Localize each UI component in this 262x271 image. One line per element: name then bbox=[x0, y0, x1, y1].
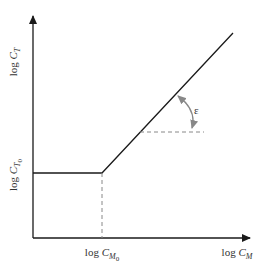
y-tick-label: log CT0 bbox=[7, 158, 24, 191]
svg-text:log CT0: log CT0 bbox=[7, 158, 24, 191]
angle-label: ε bbox=[194, 104, 199, 116]
x-tick-label: log CM0 bbox=[85, 246, 120, 263]
angle-arc bbox=[185, 102, 193, 128]
angle-arc-start bbox=[178, 96, 186, 103]
diagram-canvas: ε log CT log CT0 log CM0 log CM bbox=[0, 0, 262, 271]
svg-text:log CT: log CT bbox=[7, 47, 22, 76]
y-axis-label: log CT bbox=[7, 47, 22, 76]
response-curve bbox=[33, 33, 233, 173]
x-axis-label: log CM bbox=[222, 246, 254, 261]
